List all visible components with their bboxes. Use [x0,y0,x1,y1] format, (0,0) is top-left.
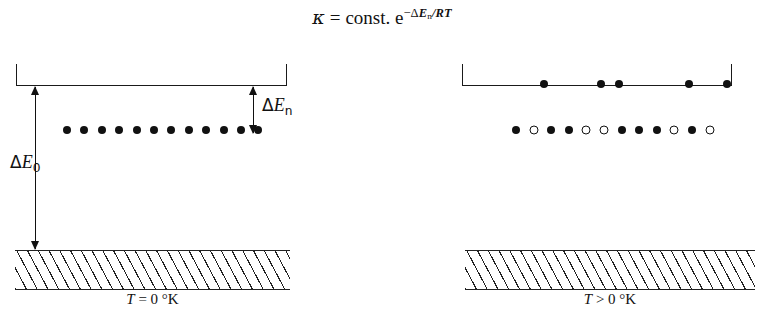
temperature-label-right: T > 0 °K [465,291,755,308]
left-level-electron [220,126,228,134]
delta-e0-arrowhead-down [31,241,39,250]
delta-en-subscript: n [285,104,293,118]
temperature-label-left: T = 0 °K [15,291,290,308]
delta-e0-arrowhead-up [31,86,39,95]
right-level-vacancy [529,126,538,135]
right-level-electron [547,126,555,134]
right-excited-electron [597,80,605,88]
temperature-label-left-value: = 0 °K [135,291,179,307]
right-level-electron [635,126,643,134]
ground-state-band-left [15,250,290,290]
right-level-vacancy [705,126,714,135]
right-excited-electron [540,80,548,88]
right-level-electron [688,126,696,134]
left-level-electron [98,126,106,134]
temperature-label-left-T: T [126,291,134,307]
left-level-electron [133,126,141,134]
temperature-label-right-T: T [584,291,592,307]
left-level-electron [185,126,193,134]
delta-e0-delta-symbol: Δ [10,152,22,172]
right-excited-electron [723,80,731,88]
right-level-electron [512,126,520,134]
delta-en-E-symbol: E [274,95,285,115]
right-level-vacancy [600,126,609,135]
left-level-electron [150,126,158,134]
right-excited-electron [615,80,623,88]
equation-exponent-delta: Δ [411,6,419,20]
delta-en-delta-symbol: Δ [262,95,274,115]
delta-en-label: ΔEn [262,95,292,118]
continuum-bracket-left [16,85,287,86]
left-level-electron [63,126,71,134]
right-level-electron [653,126,661,134]
left-level-electron [237,126,245,134]
right-level-vacancy [670,126,679,135]
temperature-label-right-value: > 0 °K [592,291,636,307]
right-excited-electron [685,80,693,88]
ground-state-band-right [465,250,755,290]
equation-exponent-subscript-n: n [427,11,432,21]
right-level-vacancy [582,126,591,135]
delta-e0-subscript: 0 [33,161,41,175]
right-level-electron [618,126,626,134]
left-level-electron [202,126,210,134]
left-level-electron [254,126,262,134]
left-level-electron [115,126,123,134]
left-level-electron [167,126,175,134]
delta-en-arrowhead-up [249,86,257,95]
delta-e0-label: ΔE0 [10,152,40,175]
panel-zero-kelvin: ΔE0 ΔEn T = 0 °K [0,0,400,324]
left-level-electron [80,126,88,134]
delta-e0-E-symbol: E [22,152,33,172]
panel-above-zero-kelvin: T > 0 °K [440,0,764,324]
equation-exponent-minus: − [403,6,410,20]
equation-exponent-E: E [419,6,427,20]
energy-level-diagram-figure: κ=const. e−ΔEn/RT ΔE0 ΔEn T = 0 °K [0,0,764,324]
right-level-electron [565,126,573,134]
